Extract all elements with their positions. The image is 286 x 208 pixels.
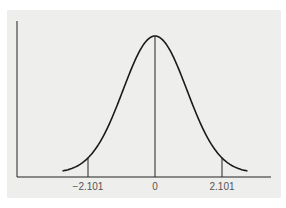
tick-label-right: 2.101 bbox=[209, 181, 234, 192]
chart-svg bbox=[0, 0, 286, 208]
tick-label-left: −2.101 bbox=[73, 181, 104, 192]
tick-label-center: 0 bbox=[152, 181, 158, 192]
